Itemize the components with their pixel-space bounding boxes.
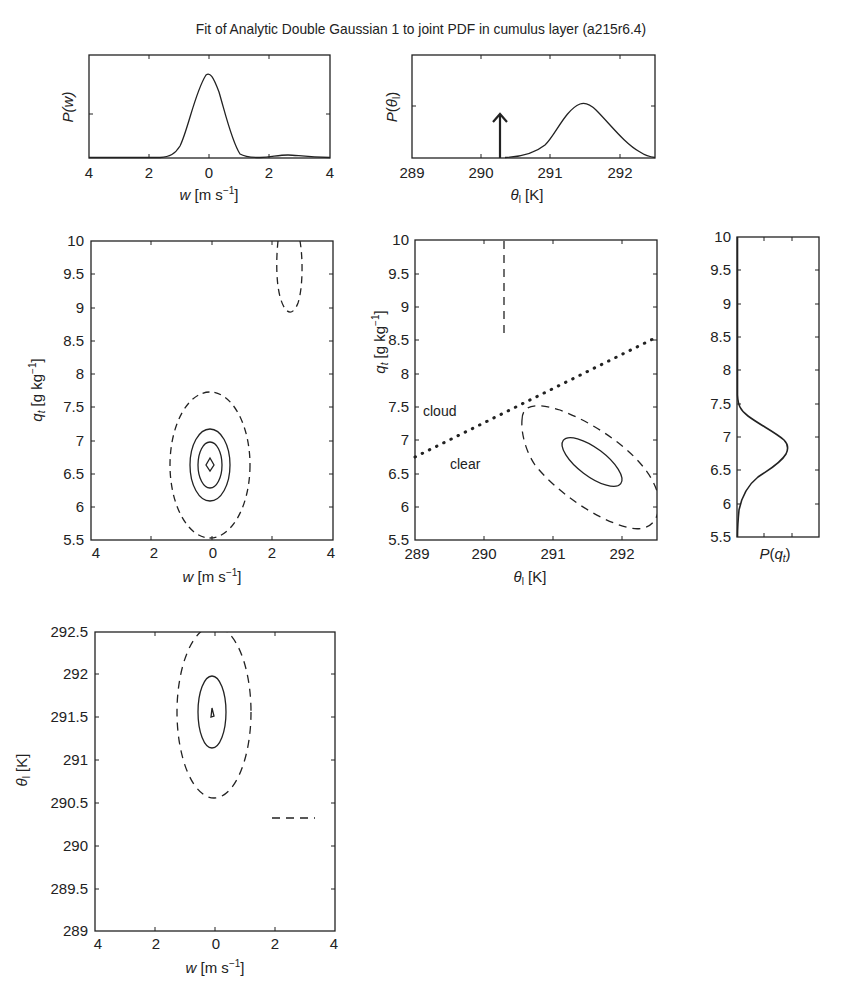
ptheta-ylabel: P(θl) — [383, 92, 402, 122]
svg-text:4: 4 — [94, 935, 102, 952]
svg-text:9.5: 9.5 — [388, 265, 409, 282]
contour-dashed-main — [177, 626, 251, 798]
ptheta-xlabel: θl [K] — [511, 186, 544, 205]
svg-text:8: 8 — [723, 361, 731, 378]
svg-text:8.5: 8.5 — [710, 328, 731, 345]
thetaqt-xlabel: θl [K] — [514, 568, 547, 587]
svg-text:6: 6 — [723, 495, 731, 512]
svg-text:5.5: 5.5 — [63, 531, 84, 548]
ptheta-xticks: 289 290 291 292 — [399, 164, 632, 181]
contour-solid-peak — [211, 708, 214, 717]
pqt-xlabel: P(qt) — [759, 545, 790, 564]
pw-xticks: 4 2 0 2 4 — [85, 164, 334, 181]
svg-text:290: 290 — [471, 545, 496, 562]
svg-text:292: 292 — [607, 164, 632, 181]
svg-text:9: 9 — [76, 299, 84, 316]
contour-dashed-main — [170, 392, 250, 538]
svg-text:4: 4 — [327, 544, 335, 561]
thetaqt-xticks: 289 290 291 292 — [404, 545, 634, 562]
svg-text:7.5: 7.5 — [710, 395, 731, 412]
panel-w-qt — [91, 241, 333, 540]
svg-text:7.5: 7.5 — [388, 398, 409, 415]
svg-text:6.5: 6.5 — [63, 465, 84, 482]
panel-theta-qt — [415, 240, 659, 540]
svg-text:292.5: 292.5 — [50, 623, 88, 640]
contour-solid-peak — [206, 458, 214, 471]
svg-text:0: 0 — [212, 935, 220, 952]
pqt-yticks: 10 9.5 9 8.5 8 7.5 7 6.5 6 5.5 — [710, 228, 731, 545]
svg-text:6.5: 6.5 — [710, 461, 731, 478]
pw-ylabel: P(w) — [59, 92, 76, 123]
svg-text:4: 4 — [85, 164, 93, 181]
wtheta-xlabel: w [m s−1] — [186, 958, 245, 976]
svg-text:10: 10 — [714, 228, 731, 245]
svg-text:2: 2 — [150, 544, 158, 561]
svg-text:289: 289 — [399, 164, 424, 181]
svg-text:289: 289 — [404, 545, 429, 562]
svg-text:10: 10 — [392, 231, 409, 248]
panel-ptheta — [412, 55, 655, 158]
delta-arrow-icon — [493, 114, 507, 158]
svg-text:8.5: 8.5 — [63, 332, 84, 349]
wqt-yticks: 10 9.5 9 8.5 8 7.5 7 6.5 6 5.5 — [63, 232, 84, 548]
ptheta-curve — [505, 103, 655, 157]
svg-text:291.5: 291.5 — [50, 708, 88, 725]
pw-xlabel: w [m s−1] — [180, 185, 239, 203]
svg-text:6.5: 6.5 — [388, 465, 409, 482]
panel-pw — [89, 55, 330, 158]
contour-solid-mid — [198, 442, 222, 488]
cloud-region-label: cloud — [423, 403, 456, 419]
figure-canvas: 4 2 0 2 4 w [m s−1] P(w) 289 290 291 292… — [0, 0, 842, 1004]
svg-text:9.5: 9.5 — [710, 261, 731, 278]
svg-text:290.5: 290.5 — [50, 794, 88, 811]
svg-text:8: 8 — [76, 365, 84, 382]
svg-text:2: 2 — [265, 164, 273, 181]
axes-frame — [415, 240, 657, 540]
wtheta-ylabel: θl [K] — [13, 754, 32, 787]
svg-text:5.5: 5.5 — [710, 528, 731, 545]
contour-dashed-secondary — [277, 241, 302, 312]
axes-frame — [737, 237, 819, 537]
svg-text:2: 2 — [145, 164, 153, 181]
svg-text:7.5: 7.5 — [63, 398, 84, 415]
svg-text:289: 289 — [63, 922, 88, 939]
svg-text:9.5: 9.5 — [63, 265, 84, 282]
wtheta-yticks: 292.5 292 291.5 291 290.5 290 289.5 289 — [50, 623, 88, 939]
wqt-xlabel: w [m s−1] — [183, 567, 242, 585]
svg-text:0: 0 — [209, 544, 217, 561]
axes-frame — [89, 55, 330, 158]
svg-text:7: 7 — [76, 432, 84, 449]
svg-text:0: 0 — [205, 164, 213, 181]
contour-solid-outer — [190, 429, 230, 501]
contour-dashed-main — [522, 406, 659, 529]
pqt-curve — [738, 237, 788, 537]
thetaqt-yticks: 10 9.5 9 8.5 8 7.5 7 6.5 6 5.5 — [388, 231, 409, 548]
svg-text:8: 8 — [401, 365, 409, 382]
svg-text:291: 291 — [537, 164, 562, 181]
svg-text:7: 7 — [401, 431, 409, 448]
svg-text:8.5: 8.5 — [388, 331, 409, 348]
svg-text:6: 6 — [76, 498, 84, 515]
axes-frame — [412, 55, 655, 158]
svg-text:2: 2 — [271, 935, 279, 952]
svg-text:9: 9 — [401, 298, 409, 315]
contour-solid — [555, 429, 629, 495]
panel-pqt — [737, 237, 819, 537]
svg-text:9: 9 — [723, 295, 731, 312]
svg-text:289.5: 289.5 — [50, 880, 88, 897]
svg-text:6: 6 — [401, 498, 409, 515]
svg-text:292: 292 — [63, 665, 88, 682]
svg-text:291: 291 — [63, 751, 88, 768]
pw-curve — [89, 74, 330, 157]
svg-text:2: 2 — [152, 935, 160, 952]
svg-text:4: 4 — [326, 164, 334, 181]
wqt-xticks: 4 2 0 2 4 — [92, 544, 335, 561]
svg-text:292: 292 — [609, 545, 634, 562]
saturation-line — [415, 337, 657, 457]
wqt-ylabel: qt [g kg−1] — [27, 358, 47, 421]
panel-w-theta — [95, 626, 335, 931]
svg-text:4: 4 — [330, 935, 338, 952]
svg-text:290: 290 — [63, 837, 88, 854]
clear-region-label: clear — [450, 456, 481, 472]
wtheta-xticks: 4 2 0 2 4 — [94, 935, 338, 952]
